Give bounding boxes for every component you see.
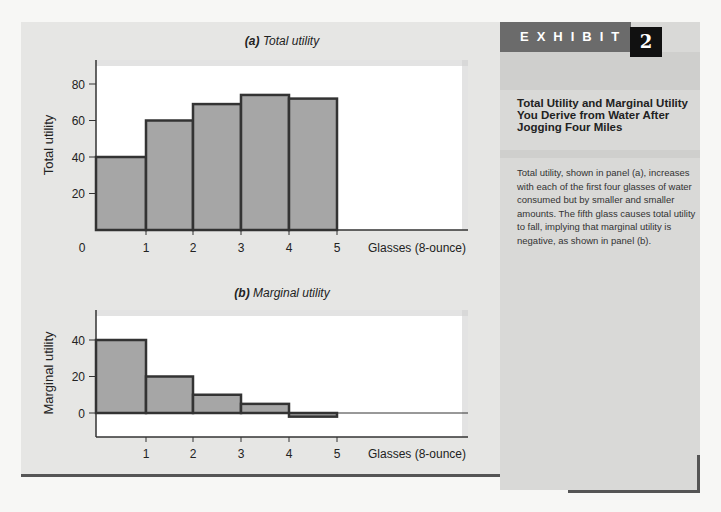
svg-text:Glasses (8-ounce): Glasses (8-ounce) — [368, 241, 466, 255]
exhibit-sidebar — [500, 22, 700, 490]
svg-text:0: 0 — [79, 241, 86, 255]
corner-rule-vertical — [697, 455, 700, 493]
svg-text:3: 3 — [238, 241, 245, 255]
bar — [241, 404, 289, 413]
title-band — [500, 52, 700, 90]
plot-area — [96, 310, 468, 437]
divider — [500, 150, 700, 158]
exhibit-label: EXHIBIT — [500, 22, 631, 52]
svg-text:60: 60 — [72, 114, 86, 128]
bar — [146, 121, 193, 231]
svg-text:Glasses (8-ounce): Glasses (8-ounce) — [368, 447, 466, 461]
bar — [193, 104, 241, 230]
svg-text:5: 5 — [334, 241, 341, 255]
svg-text:20: 20 — [72, 370, 86, 384]
bar — [146, 377, 193, 414]
exhibit-title: Total Utility and Marginal Utility You D… — [517, 97, 697, 133]
exhibit-number: 2 — [630, 27, 662, 57]
svg-text:4: 4 — [286, 447, 293, 461]
bar — [289, 99, 337, 230]
svg-text:20: 20 — [72, 187, 86, 201]
svg-text:2: 2 — [190, 447, 197, 461]
svg-text:40: 40 — [72, 334, 86, 348]
svg-text:0: 0 — [78, 407, 85, 421]
svg-text:1: 1 — [143, 241, 150, 255]
svg-text:5: 5 — [334, 447, 341, 461]
svg-text:Total utility: Total utility — [41, 114, 56, 175]
svg-text:Marginal utility: Marginal utility — [41, 331, 56, 415]
svg-text:3: 3 — [238, 447, 245, 461]
bar — [96, 157, 146, 230]
svg-text:2: 2 — [190, 241, 197, 255]
svg-text:80: 80 — [72, 78, 86, 92]
exhibit-caption: Total utility, shown in panel (a), incre… — [517, 166, 697, 247]
bar — [96, 340, 146, 413]
bar — [241, 95, 289, 230]
bar — [193, 395, 241, 413]
svg-text:40: 40 — [72, 151, 86, 165]
svg-text:1: 1 — [143, 447, 150, 461]
svg-text:4: 4 — [286, 241, 293, 255]
corner-rule-horizontal — [568, 490, 700, 493]
bar — [289, 413, 337, 417]
